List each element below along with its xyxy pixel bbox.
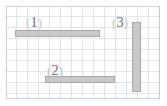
bar-3-label: (3) [112,15,128,30]
bar-3-vertical[interactable] [132,22,141,92]
bar-1-number: 1 [30,14,38,30]
bar-1-close-paren: ) [38,15,42,30]
bar-1-horizontal[interactable] [15,30,100,37]
bar-3-close-paren: ) [124,15,128,30]
bar-2-number: 2 [51,62,59,78]
bar-2-close-paren: ) [59,63,63,78]
diagram-canvas: (1) (2) (3) [0,0,167,106]
bar-3-number: 3 [116,14,124,30]
bar-1-label: (1) [26,15,42,30]
bar-2-label: (2) [47,63,63,78]
